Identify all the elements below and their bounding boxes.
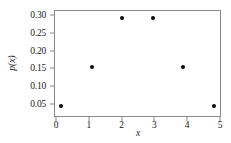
- y-tick-label: 0.20: [30, 46, 46, 56]
- figure: p(x) 0.05 0.10 0.15 0.20 0.25 0.30 0 1 2…: [0, 0, 231, 143]
- x-tick-label: 0: [54, 120, 59, 130]
- data-point: [120, 16, 124, 20]
- y-tick-label: 0.05: [30, 99, 46, 109]
- data-point: [90, 65, 94, 69]
- x-tick-label: 3: [152, 120, 157, 130]
- x-axis-label: x: [136, 128, 140, 138]
- x-tick-label: 4: [185, 120, 190, 130]
- y-axis-ticks: 0.05 0.10 0.15 0.20 0.25 0.30: [0, 0, 54, 143]
- data-point: [212, 104, 216, 108]
- data-point: [151, 16, 155, 20]
- plot-area: [54, 10, 221, 117]
- x-tick-label: 2: [119, 120, 124, 130]
- y-tick-label: 0.30: [30, 10, 46, 20]
- data-point: [181, 65, 185, 69]
- x-tick-label: 1: [86, 120, 91, 130]
- y-tick-label: 0.15: [30, 63, 46, 73]
- data-point: [59, 104, 63, 108]
- x-tick-label: 5: [218, 120, 223, 130]
- y-tick-label: 0.25: [30, 28, 46, 38]
- y-tick-label: 0.10: [30, 81, 46, 91]
